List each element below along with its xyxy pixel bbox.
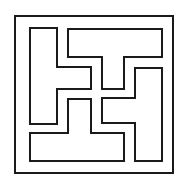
pieces-group [30,28,162,161]
bottom-t-piece [30,99,124,161]
right-t-piece [102,68,162,161]
top-t-piece [68,29,162,89]
outer-frame [15,16,173,173]
t-piece-diagram [0,0,182,185]
left-t-piece [30,28,91,124]
